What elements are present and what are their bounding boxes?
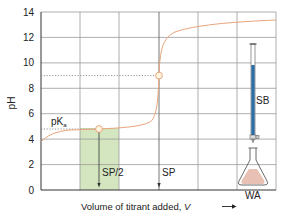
y-tick-labels: 0 2 4 6 8 10 12 14 [23, 7, 35, 196]
titration-curve [41, 20, 276, 142]
svg-text:4: 4 [28, 134, 34, 145]
sp-arrowhead-icon [157, 183, 160, 188]
titration-chart: 0 2 4 6 8 10 12 14 pH pKa SP/2 SP SB WA [0, 0, 290, 216]
flask-label: WA [245, 190, 261, 201]
svg-text:10: 10 [23, 57, 35, 68]
svg-text:2: 2 [28, 159, 34, 170]
svg-text:6: 6 [28, 108, 34, 119]
y-axis-label: pH [6, 97, 17, 110]
svg-text:12: 12 [23, 32, 35, 43]
equivalence-point [156, 72, 163, 79]
sp-label: SP [162, 167, 176, 178]
svg-text:14: 14 [23, 7, 35, 18]
svg-text:0: 0 [28, 185, 34, 196]
half-equivalence-region [80, 128, 119, 190]
half-equivalence-point [96, 126, 103, 133]
sp2-label: SP/2 [102, 167, 124, 178]
burette-icon [250, 44, 260, 143]
x-axis-label: Volume of titrant added, V [81, 201, 192, 212]
flask-icon [238, 148, 267, 185]
pka-label: pKa [51, 116, 67, 128]
svg-text:8: 8 [28, 83, 34, 94]
arrow-right-icon [222, 204, 237, 208]
grid [41, 12, 276, 190]
burette-label: SB [256, 95, 270, 106]
